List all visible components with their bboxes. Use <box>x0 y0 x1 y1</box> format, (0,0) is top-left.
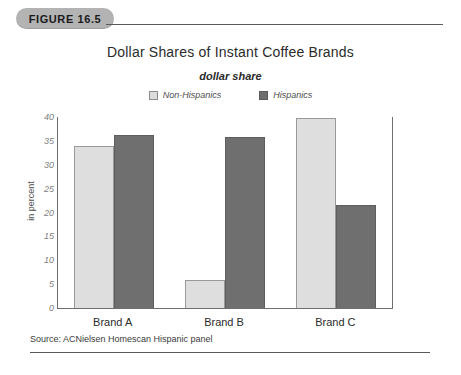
plot-area <box>57 117 393 309</box>
y-axis-tick-label: 30 <box>6 160 54 170</box>
y-axis-tick-label: 5 <box>6 279 54 289</box>
y-axis-tick-label: 15 <box>6 231 54 241</box>
plot-wrapper: in percent 4035302520151050 Brand ABrand… <box>0 0 461 375</box>
y-axis-tick-label: 0 <box>6 303 54 313</box>
x-axis-label: Brand A <box>53 316 173 328</box>
bar <box>74 146 114 308</box>
x-axis-label: Brand C <box>275 316 395 328</box>
y-axis-tick-label: 40 <box>6 112 54 122</box>
y-axis-tick-label: 10 <box>6 255 54 265</box>
bar <box>296 118 336 308</box>
y-axis-ticks: 4035302520151050 <box>0 0 54 375</box>
source-note: Source: ACNielsen Homescan Hispanic pane… <box>30 334 213 344</box>
bar <box>336 205 376 308</box>
footer-divider <box>30 352 430 353</box>
bar <box>225 137 265 308</box>
y-axis-tick-label: 35 <box>6 136 54 146</box>
bar <box>114 135 154 308</box>
y-axis-tick-label: 20 <box>6 208 54 218</box>
bar-group <box>74 117 154 308</box>
x-axis-label: Brand B <box>164 316 284 328</box>
bar <box>185 280 225 308</box>
bar-group <box>296 117 376 308</box>
y-axis-tick-label: 25 <box>6 184 54 194</box>
bar-group <box>185 117 265 308</box>
